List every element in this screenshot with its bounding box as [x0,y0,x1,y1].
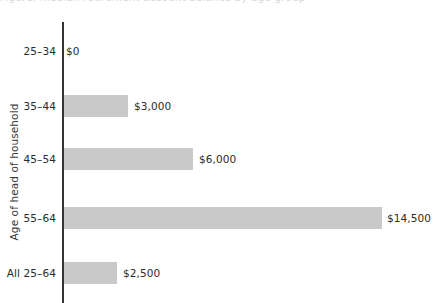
bar-value-label: $0 [66,40,80,62]
category-label: All 25–64 [0,262,56,284]
bar-value-label: $2,500 [123,262,160,284]
plot-area: 25–34 $0 35–44 $3,000 45–54 $6,000 55–64… [0,0,434,303]
bar-row: 45–54 $6,000 [0,148,434,170]
category-label: 25–34 [0,40,56,62]
bar-row: All 25–64 $2,500 [0,262,434,284]
category-label: 35–44 [0,95,56,117]
bar[interactable] [64,95,128,117]
bar-value-label: $14,500 [387,207,431,229]
bar[interactable] [64,207,382,229]
bar-chart: Figure: median retirement account balanc… [0,0,434,303]
bar-value-label: $3,000 [134,95,171,117]
bar[interactable] [64,262,117,284]
bar-value-label: $6,000 [199,148,236,170]
bar[interactable] [64,148,193,170]
category-label: 55–64 [0,207,56,229]
bar-row: 25–34 $0 [0,40,434,62]
bar-row: 55–64 $14,500 [0,207,434,229]
bar-row: 35–44 $3,000 [0,95,434,117]
category-label: 45–54 [0,148,56,170]
